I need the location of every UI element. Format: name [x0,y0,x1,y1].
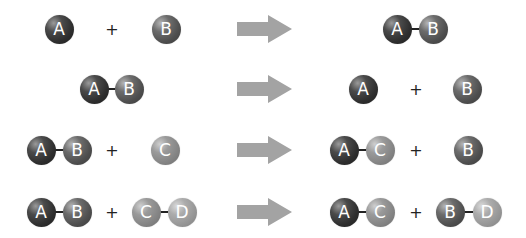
plus-sign: + [409,206,423,220]
atom-c: C [366,136,395,165]
atom-b: B [436,198,465,227]
reaction-arrow-icon [237,136,293,164]
atom-b: B [63,198,92,227]
plus-sign: + [409,83,423,97]
atom-a: A [383,15,412,44]
plus-sign: + [105,23,119,37]
reaction-arrow-icon [237,198,293,226]
atom-a: A [349,75,378,104]
atom-b: B [152,15,181,44]
atom-a: A [45,15,74,44]
atom-a: A [330,198,359,227]
atom-b: B [115,75,144,104]
atom-a: A [27,136,56,165]
plus-sign: + [105,144,119,158]
reaction-arrow-icon [237,75,293,103]
atom-b: B [63,136,92,165]
atom-d: D [168,198,197,227]
atom-d: D [473,198,502,227]
atom-a: A [330,136,359,165]
atom-b: B [453,75,482,104]
plus-sign: + [409,144,423,158]
atom-c: C [151,136,180,165]
atom-b: B [419,15,448,44]
atom-b: B [454,136,483,165]
plus-sign: + [105,206,119,220]
atom-c: C [366,198,395,227]
reaction-arrow-icon [237,15,293,43]
atom-a: A [27,198,56,227]
atom-c: C [132,198,161,227]
atom-a: A [80,75,109,104]
